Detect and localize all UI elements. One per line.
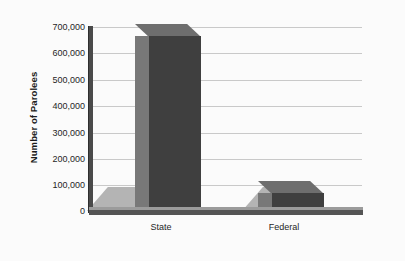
y-tick-label: 600,000 <box>25 48 85 58</box>
gridline <box>89 53 362 54</box>
x-tick-label-state: State <box>116 222 206 232</box>
y-tick-label: 300,000 <box>25 128 85 138</box>
bar-state-side <box>135 36 150 211</box>
gridline <box>89 106 362 107</box>
bar-state-front <box>149 36 201 211</box>
floor-baseline <box>89 210 363 215</box>
gridline <box>89 80 362 81</box>
gridline <box>89 27 362 28</box>
y-tick-label: 0 <box>25 206 85 216</box>
plot-area <box>89 27 362 212</box>
gridline <box>89 159 362 160</box>
y-tick-label: 100,000 <box>25 180 85 190</box>
y-axis-tick-labels: 700,000 600,000 500,000 400,000 300,000 … <box>23 0 85 261</box>
gridline <box>89 185 362 186</box>
gridline <box>89 133 362 134</box>
y-tick-label: 500,000 <box>25 75 85 85</box>
x-tick-label-federal: Federal <box>239 222 329 232</box>
y-tick-label: 200,000 <box>25 154 85 164</box>
y-tick-label: 700,000 <box>25 22 85 32</box>
y-axis-line <box>88 26 93 213</box>
parolees-bar-chart: Number of Parolees 700,000 600,000 500,0… <box>0 0 405 261</box>
y-tick-label: 400,000 <box>25 101 85 111</box>
